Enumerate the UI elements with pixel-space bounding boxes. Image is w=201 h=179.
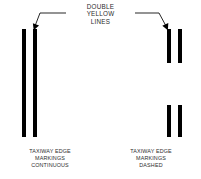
dashed-bar-right-upper (178, 29, 182, 63)
dashed-bar-left-upper (167, 29, 171, 63)
dashed-bar-left-lower (167, 105, 171, 137)
continuous-bar-left (22, 29, 26, 137)
dashed-bar-right-lower (178, 105, 182, 137)
continuous-bar-right (33, 29, 37, 137)
caption-dashed: TAXIWAY EDGE MARKINGS DASHED (103, 148, 199, 170)
caption-continuous: TAXIWAY EDGE MARKINGS CONTINUOUS (2, 148, 98, 170)
leader-line-left (35, 13, 66, 26)
taxiway-marking-diagram: DOUBLE YELLOW LINES TAXIWAY EDGE MARKING… (0, 0, 201, 179)
leader-line-right (135, 13, 166, 26)
callout-label: DOUBLE YELLOW LINES (68, 3, 133, 25)
